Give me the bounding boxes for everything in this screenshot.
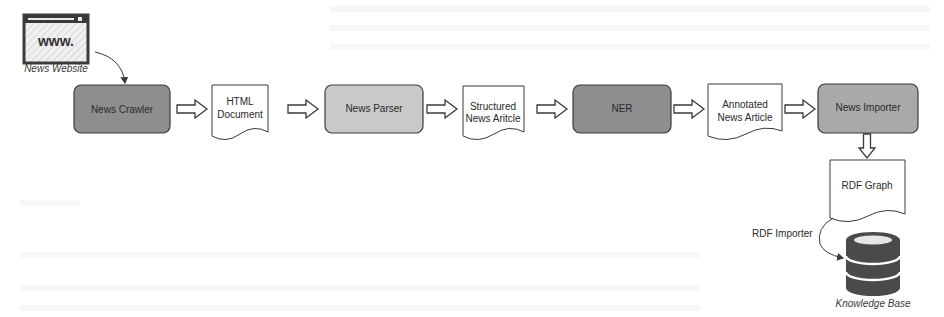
block-arrow-annotated-to-importer <box>785 100 815 118</box>
news-crawler-node: News Crawler <box>74 85 170 133</box>
annotated-line1: Annotated <box>722 99 768 110</box>
background-bleed-text <box>20 6 930 311</box>
block-arrow-ner-to-annotated <box>674 100 704 118</box>
structured-line2: News Aritcle <box>465 113 520 124</box>
knowledge-base-label: Knowledge Base <box>835 298 910 309</box>
structured-news-article-node: Structured News Aritcle <box>463 86 524 140</box>
html-document-line2: Document <box>217 109 263 120</box>
edge-rdf-to-knowledge-base <box>819 218 843 258</box>
annotated-line2: News Article <box>717 112 772 123</box>
ner-node: NER <box>573 85 671 133</box>
block-arrow-crawler-to-html <box>177 100 207 118</box>
rdf-importer-label: RDF Importer <box>752 228 813 239</box>
annotated-news-article-node: Annotated News Article <box>708 84 782 140</box>
news-parser-label: News Parser <box>345 103 403 114</box>
block-arrow-importer-to-rdf <box>859 134 875 158</box>
news-website-label: News Website <box>24 63 88 74</box>
pipeline-diagram: www. News Website News Crawler HTML Docu… <box>0 0 944 317</box>
rdf-graph-node: RDF Graph <box>830 160 905 222</box>
www-text: www. <box>37 33 74 49</box>
edge-website-to-crawler <box>95 52 125 83</box>
news-importer-label: News Importer <box>835 102 901 113</box>
html-document-line1: HTML <box>226 96 254 107</box>
structured-line1: Structured <box>470 101 516 112</box>
news-website-node: www. News Website <box>24 15 88 74</box>
ner-label: NER <box>611 103 632 114</box>
block-arrow-structured-to-ner <box>537 100 567 118</box>
news-importer-node: News Importer <box>818 84 918 133</box>
database-icon <box>846 232 900 296</box>
block-arrow-parser-to-structured <box>427 100 457 118</box>
news-parser-node: News Parser <box>325 85 423 133</box>
block-arrow-html-to-parser <box>288 100 318 118</box>
news-crawler-label: News Crawler <box>91 104 154 115</box>
web-browser-icon: www. <box>24 15 88 63</box>
rdf-graph-label: RDF Graph <box>841 180 892 191</box>
html-document-node: HTML Document <box>212 85 268 140</box>
